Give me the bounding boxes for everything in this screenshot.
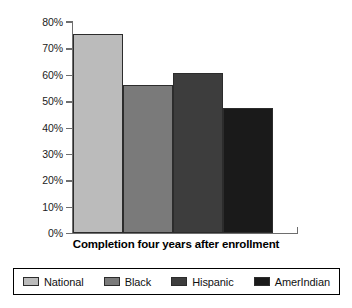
y-axis-tick-mark xyxy=(66,233,73,234)
legend-swatch-icon xyxy=(23,277,39,286)
plot-area xyxy=(73,22,297,233)
legend-item-label: Hispanic xyxy=(192,276,233,288)
y-axis-tick-label: 80% xyxy=(20,17,63,28)
x-axis-title: Completion four years after enrollment xyxy=(0,238,352,250)
bar-chart: 80%70%60%50%40%30%20%10%0% Completion fo… xyxy=(0,0,352,308)
legend-item-national[interactable]: National xyxy=(23,276,84,288)
y-axis-tick-label: 20% xyxy=(20,175,63,186)
y-axis-tick-mark xyxy=(66,180,73,181)
legend-item-label: National xyxy=(44,276,84,288)
y-axis-tick-label: 0% xyxy=(20,228,63,239)
y-axis-tick-label: 10% xyxy=(20,202,63,213)
y-axis-tick-mark xyxy=(66,22,73,23)
bar-black xyxy=(123,85,173,233)
bar-national xyxy=(73,34,123,233)
legend-item-amerindian[interactable]: AmerIndian xyxy=(254,276,330,288)
y-axis-tick-mark xyxy=(66,128,73,129)
y-axis-tick-label: 40% xyxy=(20,123,63,134)
y-axis-tick-label: 60% xyxy=(20,70,63,81)
legend-item-black[interactable]: Black xyxy=(104,276,151,288)
legend-item-label: Black xyxy=(125,276,151,288)
legend-swatch-icon xyxy=(104,277,120,286)
legend-swatch-icon xyxy=(254,277,270,286)
bar-amerindian xyxy=(223,108,273,233)
y-axis-tick-mark xyxy=(66,101,73,102)
legend-item-label: AmerIndian xyxy=(275,276,330,288)
chart-legend: NationalBlackHispanicAmerIndian xyxy=(13,268,340,295)
bar-hispanic xyxy=(173,73,223,233)
legend-swatch-icon xyxy=(171,277,187,286)
y-axis-tick-label: 50% xyxy=(20,96,63,107)
y-axis-tick-mark xyxy=(66,154,73,155)
y-axis-tick-label: 30% xyxy=(20,149,63,160)
y-axis-tick-label: 70% xyxy=(20,43,63,54)
y-axis-tick-mark xyxy=(66,75,73,76)
y-axis-tick-mark xyxy=(66,207,73,208)
y-axis-tick-mark xyxy=(66,48,73,49)
legend-item-hispanic[interactable]: Hispanic xyxy=(171,276,233,288)
